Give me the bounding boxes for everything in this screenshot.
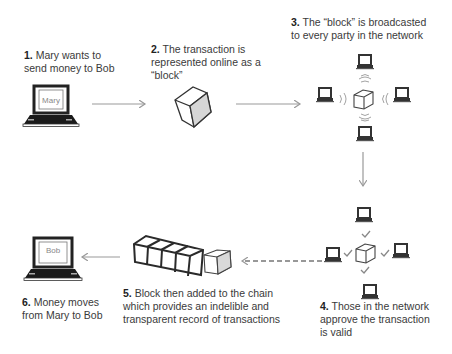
sender-screen-label: Mary (42, 96, 60, 105)
block-cube-icon (354, 90, 373, 109)
laptop-icon (361, 285, 379, 299)
laptop-icon (355, 208, 373, 222)
diagram-canvas: Mary (0, 0, 452, 354)
laptop-icon (393, 88, 411, 102)
laptop-icon (324, 248, 342, 262)
blockchain-icon (134, 236, 203, 276)
approval-network (324, 208, 410, 299)
laptop-icon (356, 55, 374, 69)
laptop-icon (316, 88, 334, 102)
block-cube-icon (175, 87, 211, 127)
sender-laptop-icon: Mary (23, 86, 79, 127)
block-cube-icon (356, 244, 375, 263)
receiver-screen-label: Bob (46, 246, 61, 255)
receiver-laptop-icon: Bob (24, 238, 82, 281)
broadcast-network (316, 55, 411, 141)
laptop-icon (356, 127, 374, 141)
new-block-cube-icon (204, 250, 231, 274)
laptop-icon (392, 244, 410, 258)
